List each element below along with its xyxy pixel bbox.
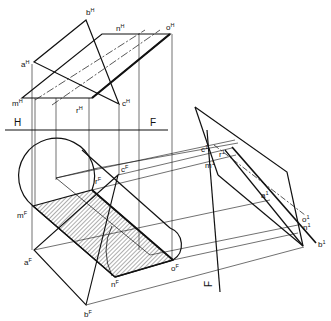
fold-label-H: H xyxy=(14,117,21,128)
front-view xyxy=(19,138,182,305)
label-mH: mH xyxy=(12,98,23,108)
label-cH: cH xyxy=(122,98,130,108)
front-view-hatched-section xyxy=(33,190,173,277)
label-c1: c1 xyxy=(201,144,208,154)
label-r1: r1 xyxy=(219,149,225,159)
label-aH: aH xyxy=(21,59,29,69)
fold-label-F: F xyxy=(150,117,156,128)
fold-label-aux-F: F xyxy=(203,281,214,287)
label-bF: bF xyxy=(84,309,92,319)
top-view-centerline-2 xyxy=(52,30,160,105)
label-aF: aF xyxy=(24,257,32,267)
descriptive-geometry-drawing: bH nH oH aH mH rH cH H F rF cF mF aF nF … xyxy=(0,0,331,321)
label-b1: b1 xyxy=(318,239,326,249)
top-view xyxy=(22,20,170,105)
label-rF: rF xyxy=(95,176,102,186)
label-nF: nF xyxy=(111,279,119,289)
label-mF: mF xyxy=(17,210,28,220)
aux-view-centerline xyxy=(214,145,305,215)
label-m1: m1 xyxy=(205,160,215,170)
label-nH: nH xyxy=(116,23,124,33)
label-rH: rH xyxy=(76,105,83,115)
label-a1: a1 xyxy=(261,190,269,200)
top-view-triangle-abc xyxy=(34,20,119,104)
label-oF: oF xyxy=(171,263,179,273)
top-view-plane-mnor xyxy=(22,34,170,98)
label-n1: n1 xyxy=(303,222,311,232)
label-oH: oH xyxy=(166,22,174,32)
label-bH: bH xyxy=(86,7,94,17)
